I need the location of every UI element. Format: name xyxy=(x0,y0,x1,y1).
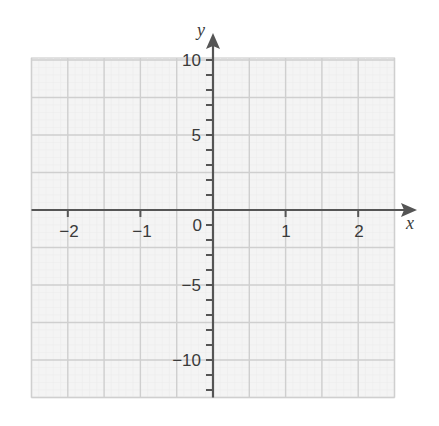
x-axis-label: x xyxy=(405,213,414,233)
origin-label: 0 xyxy=(193,216,202,235)
y-tick-label: −10 xyxy=(172,351,201,370)
x-tick-label: 1 xyxy=(281,222,290,241)
x-tick-label: 2 xyxy=(354,222,363,241)
y-tick-label: 5 xyxy=(192,126,201,145)
y-tick-label: 10 xyxy=(182,51,201,70)
x-tick-label: −1 xyxy=(132,222,151,241)
x-tick-label: −2 xyxy=(59,222,78,241)
y-tick-label: −5 xyxy=(182,276,201,295)
y-axis-label: y xyxy=(195,20,205,40)
coordinate-plane: −2 −1 1 2 10 5 −5 −10 0 x y xyxy=(0,0,439,426)
